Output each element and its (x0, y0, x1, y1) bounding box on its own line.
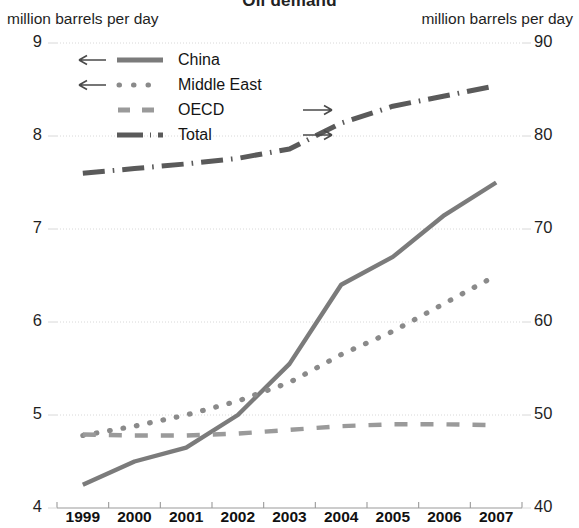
legend-swatch-oecd (112, 105, 168, 115)
right-tick-50: 50 (534, 404, 552, 423)
right-tick-70: 70 (534, 218, 552, 237)
left-arrow-icon (70, 78, 112, 92)
right-tick-80: 80 (534, 125, 552, 144)
right-tick-60: 60 (534, 311, 552, 330)
x-tick-2003: 2003 (264, 508, 316, 526)
series-line-oecd (83, 424, 496, 435)
x-tick-2006: 2006 (419, 508, 471, 526)
left-tick-8: 8 (33, 125, 42, 144)
left-arrow-icon (70, 53, 112, 67)
x-tick-2004: 2004 (315, 508, 367, 526)
series-line-middle_east (83, 276, 496, 436)
left-tick-9: 9 (33, 32, 42, 51)
oil-demand-chart: Oil demand million barrels per day milli… (0, 0, 579, 528)
legend-item-china: China (70, 47, 370, 72)
x-tick-2001: 2001 (160, 508, 212, 526)
legend-swatch-total (112, 130, 168, 140)
left-tick-6: 6 (33, 311, 42, 330)
legend-item-oecd: OECD (70, 97, 370, 122)
x-tick-1999: 1999 (57, 508, 109, 526)
legend-swatch-china (112, 55, 168, 65)
right-arrow-icon (302, 122, 336, 147)
chart-legend: China Middle East OECD (70, 47, 370, 147)
legend-label-total: Total (168, 126, 212, 144)
legend-item-middle-east: Middle East (70, 72, 370, 97)
x-tick-2000: 2000 (109, 508, 161, 526)
right-tick-40: 40 (534, 497, 552, 516)
legend-item-total: Total (70, 122, 370, 147)
right-arrow-icon (302, 97, 336, 122)
x-tick-2007: 2007 (470, 508, 522, 526)
legend-swatch-middle-east (112, 80, 168, 90)
legend-label-china: China (168, 51, 220, 69)
legend-label-oecd: OECD (168, 101, 224, 119)
left-tick-5: 5 (33, 404, 42, 423)
series-line-china (83, 183, 496, 485)
left-tick-4: 4 (33, 497, 42, 516)
x-tick-2002: 2002 (212, 508, 264, 526)
x-tick-2005: 2005 (367, 508, 419, 526)
left-tick-7: 7 (33, 218, 42, 237)
legend-label-middle-east: Middle East (168, 76, 262, 94)
right-tick-90: 90 (534, 32, 552, 51)
